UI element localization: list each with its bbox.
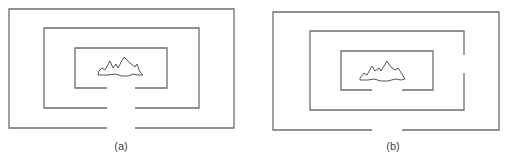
wall-middle-a — [44, 28, 199, 108]
caption-a: (a) — [114, 140, 127, 152]
maze-figure — [0, 0, 507, 158]
wall-inner-a — [75, 48, 167, 88]
caption-b: (b) — [386, 140, 399, 152]
wall-outer-b — [273, 12, 499, 130]
panel-b — [273, 12, 499, 130]
wall-middle-b — [310, 31, 464, 110]
mountain-icon — [98, 57, 143, 76]
wall-outer-a — [9, 9, 234, 128]
panel-a — [9, 9, 234, 128]
wall-inner-b — [341, 51, 433, 90]
mountain-icon — [360, 61, 405, 81]
